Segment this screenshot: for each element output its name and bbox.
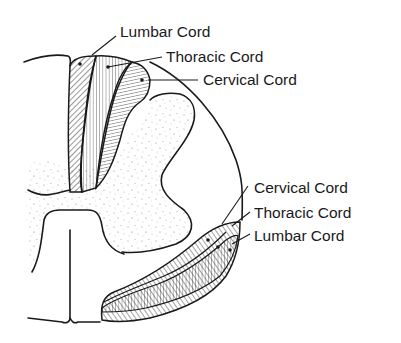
dorsal-cervical-dot	[140, 78, 144, 82]
dorsal-column-left-outline	[24, 55, 71, 66]
label-ventro-thoracic: Thoracic Cord	[254, 204, 351, 221]
ventro-cervical-dot	[206, 238, 210, 242]
ventro-thoracic-dot	[216, 245, 220, 249]
dorsal-lumbar-leader	[92, 36, 116, 55]
label-dorsal-thoracic: Thoracic Cord	[166, 48, 263, 65]
ventro-lumbar-dot	[228, 248, 232, 252]
dorsal-lumbar-dot	[78, 62, 82, 66]
label-dorsal-cervical: Cervical Cord	[203, 71, 297, 88]
spinal-cord-diagram: Lumbar Cord Thoracic Cord Cervical Cord …	[0, 0, 401, 343]
label-ventro-lumbar: Lumbar Cord	[254, 227, 344, 244]
label-ventro-cervical: Cervical Cord	[254, 179, 348, 196]
ventro-cervical-leader	[222, 186, 248, 224]
label-dorsal-lumbar: Lumbar Cord	[120, 23, 210, 40]
ventral-median-fissure-right	[70, 318, 100, 323]
ventro-thoracic-leader	[232, 212, 250, 226]
